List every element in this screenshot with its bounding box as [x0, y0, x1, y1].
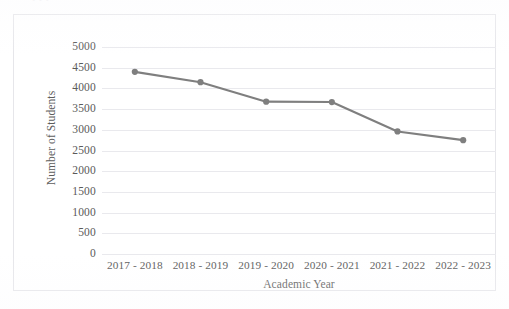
y-axis-tick-label: 3000: [50, 124, 96, 135]
y-axis-tick-label: 0: [50, 248, 96, 259]
scan-artifact-top-text: • • •: [32, 0, 182, 4]
y-axis-tick-labels: 0500100015002000250030003500400045005000: [50, 47, 96, 254]
x-axis-title: Academic Year: [102, 278, 496, 290]
y-axis-tick-label: 2000: [50, 165, 96, 176]
y-axis-tick-label: 5000: [50, 41, 96, 52]
x-axis-tick-label: 2020 - 2021: [299, 259, 365, 271]
y-axis-tick-label: 500: [50, 227, 96, 238]
line-series: [102, 47, 496, 254]
x-axis-tick-label: 2021 - 2022: [365, 259, 431, 271]
y-axis-tick-label: 1000: [50, 207, 96, 218]
data-point-marker: [460, 137, 466, 143]
plot-area: [102, 47, 496, 254]
data-point-marker: [197, 79, 203, 85]
data-point-marker: [132, 69, 138, 75]
x-axis-tick-label: 2017 - 2018: [102, 259, 168, 271]
x-axis-tick-label: 2018 - 2019: [168, 259, 234, 271]
chart-frame: Number of Students 050010001500200025003…: [13, 14, 496, 291]
data-point-marker: [263, 99, 269, 105]
y-axis-tick-label: 1500: [50, 186, 96, 197]
x-axis-tick-label: 2019 - 2020: [233, 259, 299, 271]
x-axis-tick-labels: 2017 - 20182018 - 20192019 - 20202020 - …: [102, 259, 496, 275]
y-axis-tick-label: 2500: [50, 145, 96, 156]
y-axis-tick-label: 4000: [50, 82, 96, 93]
y-axis-tick-label: 4500: [50, 62, 96, 73]
x-axis-tick-label: 2022 - 2023: [430, 259, 496, 271]
data-point-marker: [394, 128, 400, 134]
gridline: [102, 254, 496, 255]
y-axis-tick-label: 3500: [50, 103, 96, 114]
series-line: [135, 72, 463, 140]
data-point-marker: [329, 99, 335, 105]
